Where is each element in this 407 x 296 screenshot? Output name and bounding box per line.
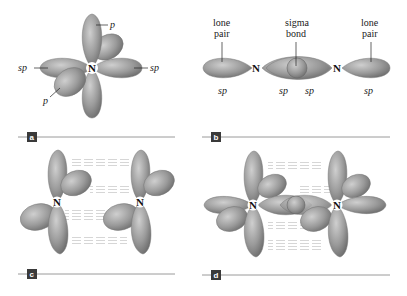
panel-b: N N lone pair sigma bond lone pair sp sp… bbox=[202, 17, 390, 142]
label-p-bottom: p bbox=[42, 95, 48, 106]
svg-text:sp: sp bbox=[364, 85, 373, 96]
p-orbital-lobe bbox=[82, 14, 102, 68]
svg-text:sp: sp bbox=[279, 85, 288, 96]
label-p-top: p bbox=[109, 19, 115, 30]
panel-c: N N c bbox=[17, 150, 178, 279]
svg-text:bond: bond bbox=[286, 28, 306, 39]
svg-text:d: d bbox=[214, 271, 219, 280]
atom-label: N bbox=[88, 62, 96, 74]
atom-label: N bbox=[252, 62, 260, 74]
atom-label: N bbox=[333, 62, 341, 74]
atom-label: N bbox=[136, 196, 144, 208]
svg-text:pair: pair bbox=[362, 28, 378, 39]
label-lone-pair-right: lone bbox=[361, 17, 379, 28]
atom-label: N bbox=[249, 199, 257, 211]
lone-pair-lobe bbox=[203, 58, 252, 78]
panel-d: N N d bbox=[202, 151, 390, 280]
sigma-bond-overlap bbox=[287, 58, 307, 78]
svg-text:pair: pair bbox=[214, 28, 230, 39]
svg-text:c: c bbox=[30, 270, 35, 279]
panel-a: N p sp sp p a bbox=[18, 14, 175, 142]
label-sp-right: sp bbox=[150, 62, 159, 73]
orbital-diagram: N p sp sp p a N N lone pair sigma bond l… bbox=[0, 0, 407, 296]
label-sigma-bond: sigma bbox=[285, 17, 309, 28]
label-sp-left: sp bbox=[18, 62, 27, 73]
svg-text:b: b bbox=[214, 133, 219, 142]
svg-text:sp: sp bbox=[305, 85, 314, 96]
lone-pair-lobe bbox=[342, 58, 390, 78]
svg-text:sp: sp bbox=[218, 85, 227, 96]
atom-label: N bbox=[53, 196, 61, 208]
atom-label: N bbox=[333, 199, 341, 211]
svg-text:a: a bbox=[30, 133, 35, 142]
label-lone-pair-left: lone bbox=[213, 17, 231, 28]
